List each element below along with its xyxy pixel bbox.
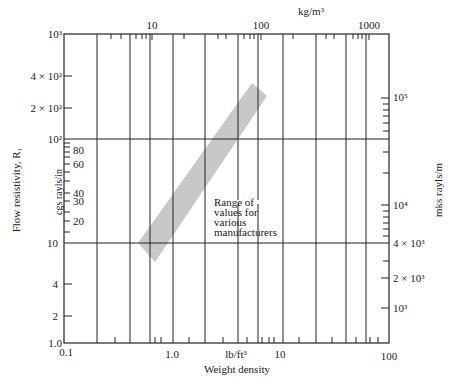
bottom-axis-ticks bbox=[115, 337, 378, 343]
bottom-axis-unit: lb/ft³ bbox=[225, 348, 247, 360]
left-inner-unit: cgs rayls/in bbox=[53, 169, 64, 215]
bottom-tick-label: 1.0 bbox=[165, 348, 179, 360]
left-tick-label: 2 bbox=[53, 310, 59, 322]
right-tick-label: 10⁴ bbox=[393, 199, 408, 211]
left-tick-label: 4 bbox=[53, 278, 59, 290]
right-axis-ticks bbox=[381, 98, 389, 308]
top-tick-label: 10 bbox=[147, 19, 159, 31]
left-inner-labels: 80 60 40 30 20 bbox=[73, 144, 85, 227]
x-axis-title: Weight density bbox=[204, 363, 271, 375]
right-tick-label: 4 × 10³ bbox=[393, 237, 425, 249]
right-tick-label: 2 × 10³ bbox=[393, 272, 425, 284]
vertical-grid bbox=[97, 34, 366, 343]
left-tick-label: 60 bbox=[73, 158, 85, 170]
left-tick-label: 1.0 bbox=[48, 337, 62, 349]
bottom-axis-labels: 0.1 1.0 lb/ft³ 10 100 Weight density bbox=[59, 346, 398, 375]
top-axis-unit: kg/m³ bbox=[298, 5, 325, 17]
left-tick-label: 30 bbox=[73, 195, 85, 207]
left-tick-label: 10³ bbox=[48, 28, 63, 40]
left-tick-label: 4 × 10² bbox=[30, 70, 62, 82]
bottom-tick-label: 10 bbox=[275, 348, 287, 360]
left-tick-label: 2 × 10² bbox=[30, 102, 62, 114]
right-axis-unit: mks rayls/m bbox=[432, 163, 444, 218]
flow-resistivity-chart: kg/m³ 10 100 1000 0.1 1.0 lb/ft³ 10 100 … bbox=[0, 0, 454, 387]
plot-frame bbox=[64, 34, 389, 343]
left-tick-label: 80 bbox=[73, 144, 85, 156]
left-tick-label: 10² bbox=[48, 133, 63, 145]
bottom-tick-label: 100 bbox=[381, 350, 398, 362]
top-axis-labels: kg/m³ 10 100 1000 bbox=[147, 5, 381, 31]
band-annotation: Range of values for various manufacturer… bbox=[212, 196, 280, 238]
right-axis-labels: 10⁵ 10⁴ 4 × 10³ 2 × 10³ 10³ bbox=[393, 91, 425, 314]
y-axis-title: Flow resistivity, R₁ bbox=[10, 147, 22, 232]
left-axis-ticks bbox=[64, 76, 72, 316]
right-tick-label: 10³ bbox=[393, 302, 408, 314]
annotation-line: manufacturers bbox=[214, 226, 277, 238]
left-tick-label: 10 bbox=[47, 237, 59, 249]
top-tick-label: 100 bbox=[253, 19, 270, 31]
right-tick-label: 10⁵ bbox=[393, 91, 408, 103]
top-tick-label: 1000 bbox=[358, 19, 381, 31]
left-tick-label: 20 bbox=[73, 215, 85, 227]
